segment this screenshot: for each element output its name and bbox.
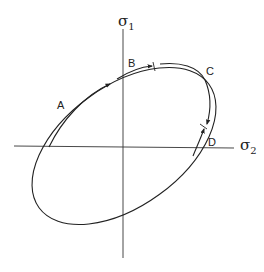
- tick-mark-b: [153, 62, 155, 71]
- point-label-b: B: [128, 57, 135, 69]
- point-label-a: A: [57, 99, 64, 111]
- tick-mark-d: [200, 124, 207, 129]
- sigma2-axis: [14, 146, 234, 148]
- sigma1-axis-label: σ1: [118, 12, 135, 32]
- loading-path-d: [193, 129, 204, 156]
- point-label-c: C: [206, 65, 214, 77]
- yield-locus-diagram: [0, 0, 264, 272]
- sigma2-axis-label: σ2: [240, 136, 257, 156]
- sigma2-symbol: σ: [240, 136, 250, 154]
- point-label-d: D: [208, 136, 216, 148]
- loading-path-c-d: [160, 64, 210, 124]
- sigma2-subscript: 2: [250, 145, 256, 156]
- sigma1-symbol: σ: [118, 12, 128, 30]
- loading-path-a-b: [49, 84, 110, 147]
- sigma1-subscript: 1: [128, 21, 134, 32]
